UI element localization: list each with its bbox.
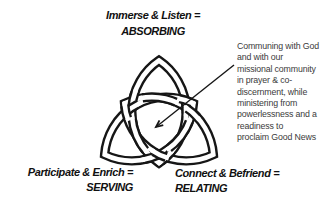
- label-relating-line2: RELATING: [175, 181, 315, 196]
- trinity-knot: [91, 50, 227, 169]
- label-absorbing-line1: Immerse & Listen =: [58, 7, 248, 23]
- label-serving: Participate & Enrich = SERVING: [8, 165, 133, 194]
- label-absorbing-line2: ABSORBING: [58, 23, 248, 39]
- triquetra-diagram: Immerse & Listen = ABSORBING Communing w…: [0, 0, 324, 208]
- label-serving-line1: Participate & Enrich =: [8, 165, 133, 180]
- label-serving-line2: SERVING: [8, 180, 133, 195]
- label-relating: Connect & Befriend = RELATING: [175, 166, 315, 195]
- annotation-text: Communing with God and with our missiona…: [237, 41, 323, 144]
- label-relating-line1: Connect & Befriend =: [175, 166, 315, 181]
- label-absorbing: Immerse & Listen = ABSORBING: [58, 7, 248, 39]
